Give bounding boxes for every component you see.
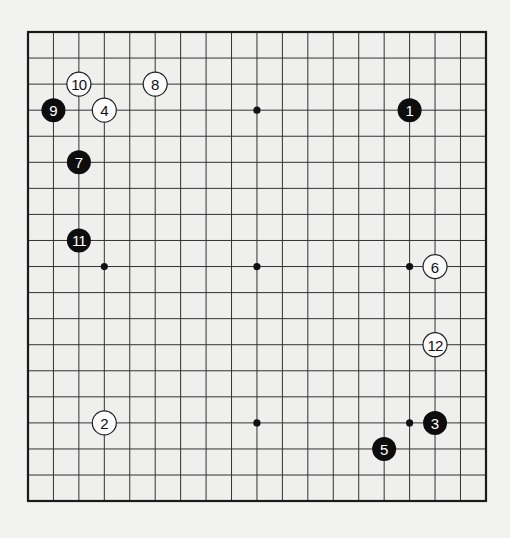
move-number: 9 [49,102,57,119]
star-point [253,263,260,270]
move-number: 4 [100,102,108,119]
star-point [406,263,413,270]
move-number: 3 [431,415,439,432]
white-stone-8: 8 [143,72,167,96]
black-stone-3: 3 [423,411,447,435]
move-number: 2 [100,415,108,432]
move-number: 11 [72,232,86,249]
move-number: 12 [427,337,443,354]
star-point [253,107,260,114]
star-point [406,419,413,426]
go-board: 123456789101112 [0,0,510,538]
white-stone-10: 10 [67,72,91,96]
move-number: 6 [431,259,439,276]
black-stone-1: 1 [398,98,422,122]
move-number: 5 [380,441,388,458]
white-stone-4: 4 [92,98,116,122]
move-number: 8 [151,76,159,93]
black-stone-11: 11 [67,228,91,252]
star-point [101,263,108,270]
black-stone-5: 5 [372,437,396,461]
white-stone-2: 2 [92,411,116,435]
move-number: 10 [71,76,87,93]
white-stone-6: 6 [423,255,447,279]
white-stone-12: 12 [423,333,447,357]
black-stone-7: 7 [67,150,91,174]
star-point [253,419,260,426]
black-stone-9: 9 [41,98,65,122]
move-number: 1 [405,102,413,119]
move-number: 7 [75,154,83,171]
